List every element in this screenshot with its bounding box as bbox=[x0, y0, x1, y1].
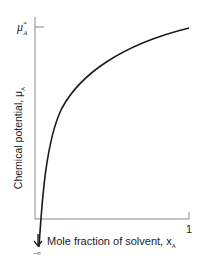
minus-infinity-label: −∞ bbox=[33, 250, 41, 256]
x-axis-label: Mole fraction of solvent, xA bbox=[47, 235, 176, 249]
y-tick-label: μ*A bbox=[16, 20, 28, 36]
chemical-potential-curve bbox=[39, 28, 189, 247]
down-arrow-icon bbox=[34, 234, 42, 246]
chart: μ*A 1 Chemical potential, μA −∞ Mole fra… bbox=[0, 0, 200, 267]
x-tick-label-1: 1 bbox=[186, 223, 192, 235]
y-axis-label: Chemical potential, μA bbox=[12, 87, 26, 189]
